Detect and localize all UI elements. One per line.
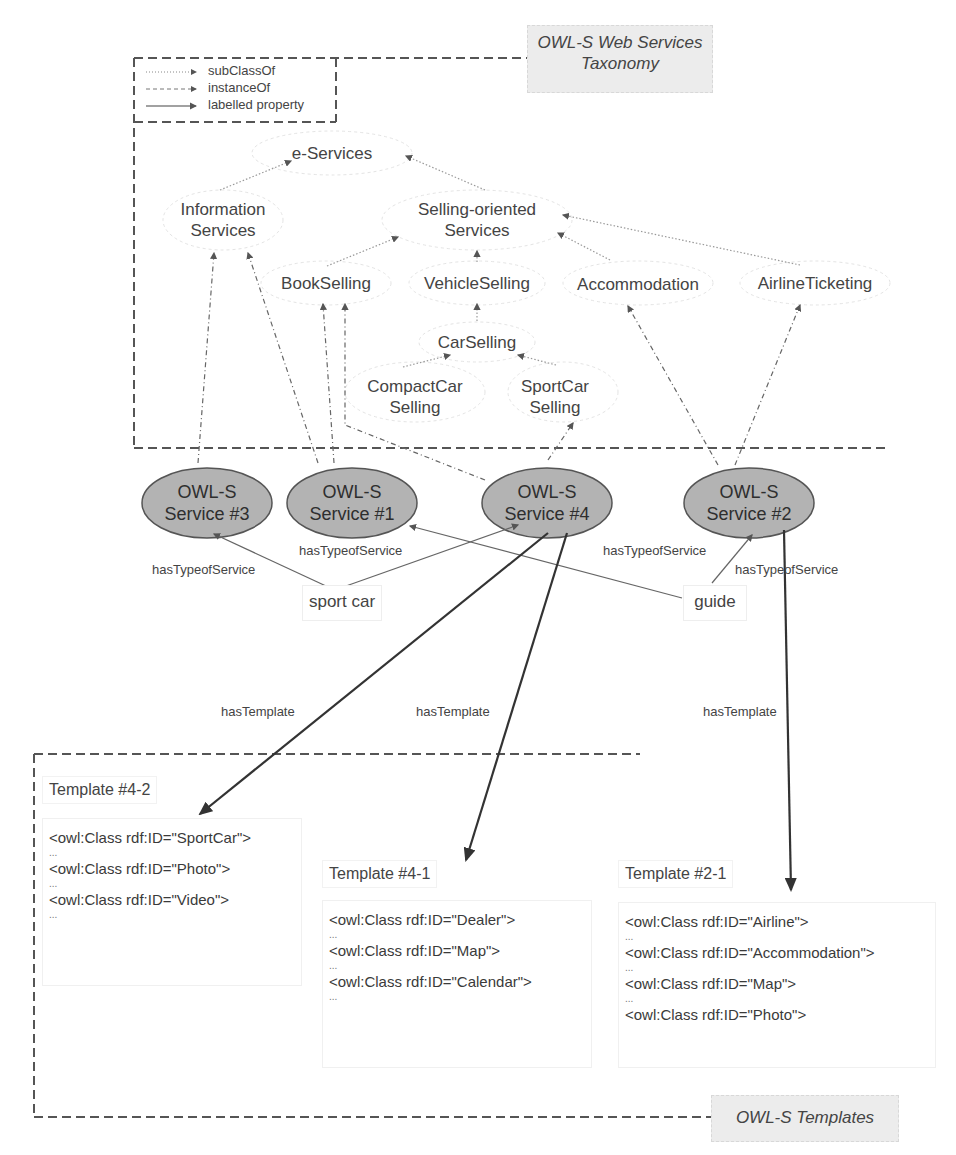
template-4-1-body: <owl:Class rdf:ID="Dealer"> ... <owl:Cla… xyxy=(322,900,592,1068)
node-compact-car-line2: Selling xyxy=(367,397,462,418)
template-4-1-ellipsis: ... xyxy=(329,930,585,940)
template-4-1-ellipsis: ... xyxy=(329,961,585,971)
service-3-line2: Service #3 xyxy=(164,503,249,525)
service-3: OWL-S Service #3 xyxy=(164,481,249,525)
templates-title: OWL-S Templates xyxy=(736,1108,874,1127)
node-accommodation: Accommodation xyxy=(577,274,699,295)
hastype-edges xyxy=(214,525,752,598)
template-2-1-line: <owl:Class rdf:ID="Airline"> xyxy=(625,911,929,932)
keyword-sport-car: sport car xyxy=(302,585,382,621)
template-4-2-ellipsis: ... xyxy=(49,910,295,920)
keyword-sport-car-label: sport car xyxy=(309,592,375,611)
template-4-1-ellipsis: ... xyxy=(329,992,585,1002)
node-compact-car-selling: CompactCar Selling xyxy=(367,376,462,418)
taxonomy-region-border xyxy=(134,58,890,448)
edge-label-hastemplate-4-2: hasTemplate xyxy=(221,704,295,719)
template-2-1-line: <owl:Class rdf:ID="Photo"> xyxy=(625,1004,929,1025)
node-information-services-line2: Services xyxy=(180,220,265,241)
taxonomy-title-box: OWL-S Web Services Taxonomy xyxy=(527,25,713,93)
node-selling-oriented-line1: Selling-oriented xyxy=(418,199,536,220)
service-1-line2: Service #1 xyxy=(309,503,394,525)
template-4-1-line: <owl:Class rdf:ID="Calendar"> xyxy=(329,971,585,992)
service-4: OWL-S Service #4 xyxy=(504,481,589,525)
template-4-2-ellipsis: ... xyxy=(49,879,295,889)
node-sport-car-selling: SportCar Selling xyxy=(521,376,589,418)
template-4-1-line: <owl:Class rdf:ID="Map"> xyxy=(329,940,585,961)
template-4-2-line: <owl:Class rdf:ID="Video"> xyxy=(49,889,295,910)
node-sport-car-line2: Selling xyxy=(521,397,589,418)
taxonomy-title-line1: OWL-S Web Services xyxy=(528,32,712,53)
node-book-selling-label: BookSelling xyxy=(281,274,371,293)
template-4-2-line: <owl:Class rdf:ID="Photo"> xyxy=(49,858,295,879)
service-2: OWL-S Service #2 xyxy=(706,481,791,525)
service-2-line2: Service #2 xyxy=(706,503,791,525)
node-car-selling: CarSelling xyxy=(438,332,516,353)
node-information-services: Information Services xyxy=(180,199,265,241)
template-2-1-title: Template #2-1 xyxy=(618,860,733,888)
service-4-line2: Service #4 xyxy=(504,503,589,525)
node-vehicle-selling: VehicleSelling xyxy=(424,273,530,294)
edge-label-hastype-s3: hasTypeofService xyxy=(152,562,255,577)
node-compact-car-line1: CompactCar xyxy=(367,376,462,397)
node-selling-oriented-line2: Services xyxy=(418,220,536,241)
edge-label-hastype-guide-s1: hasTypeofService xyxy=(603,543,706,558)
node-sport-car-line1: SportCar xyxy=(521,376,589,397)
service-3-line1: OWL-S xyxy=(164,481,249,503)
template-2-1-line: <owl:Class rdf:ID="Map"> xyxy=(625,973,929,994)
template-2-1-ellipsis: ... xyxy=(625,963,929,973)
edge-label-hastemplate-4-1: hasTemplate xyxy=(416,704,490,719)
edge-label-hastemplate-2-1: hasTemplate xyxy=(703,704,777,719)
node-car-selling-label: CarSelling xyxy=(438,333,516,352)
legend-subclassof: subClassOf xyxy=(208,63,275,78)
edge-label-hastype-s2: hasTypeofService xyxy=(735,562,838,577)
edge-label-hastype-s1: hasTypeofService xyxy=(299,543,402,558)
templates-title-box: OWL-S Templates xyxy=(711,1095,899,1142)
legend-labelled-property: labelled property xyxy=(208,97,304,112)
template-2-1-line: <owl:Class rdf:ID="Accommodation"> xyxy=(625,942,929,963)
node-airline-ticketing: AirlineTicketing xyxy=(758,273,873,294)
node-vehicle-selling-label: VehicleSelling xyxy=(424,274,530,293)
node-information-services-line1: Information xyxy=(180,199,265,220)
template-4-1-line: <owl:Class rdf:ID="Dealer"> xyxy=(329,909,585,930)
node-selling-oriented-services: Selling-oriented Services xyxy=(418,199,536,241)
legend-lines xyxy=(146,72,196,106)
legend-instanceof: instanceOf xyxy=(208,80,270,95)
node-accommodation-label: Accommodation xyxy=(577,275,699,294)
template-4-1-title: Template #4-1 xyxy=(322,860,437,888)
node-e-services-label: e-Services xyxy=(292,144,372,163)
service-2-line1: OWL-S xyxy=(706,481,791,503)
service-1-line1: OWL-S xyxy=(309,481,394,503)
service-4-line1: OWL-S xyxy=(504,481,589,503)
template-2-1-ellipsis: ... xyxy=(625,932,929,942)
node-airline-ticketing-label: AirlineTicketing xyxy=(758,274,873,293)
template-4-2-title: Template #4-2 xyxy=(42,776,157,804)
service-1: OWL-S Service #1 xyxy=(309,481,394,525)
template-2-1-ellipsis: ... xyxy=(625,994,929,1004)
taxonomy-title-line2: Taxonomy xyxy=(528,53,712,74)
keyword-guide-label: guide xyxy=(694,592,736,611)
template-4-2-line: <owl:Class rdf:ID="SportCar"> xyxy=(49,827,295,848)
node-book-selling: BookSelling xyxy=(281,273,371,294)
template-2-1-body: <owl:Class rdf:ID="Airline"> ... <owl:Cl… xyxy=(618,902,936,1068)
keyword-guide: guide xyxy=(683,585,747,621)
template-4-2-body: <owl:Class rdf:ID="SportCar"> ... <owl:C… xyxy=(42,818,302,986)
template-4-2-ellipsis: ... xyxy=(49,848,295,858)
node-e-services: e-Services xyxy=(292,143,372,164)
